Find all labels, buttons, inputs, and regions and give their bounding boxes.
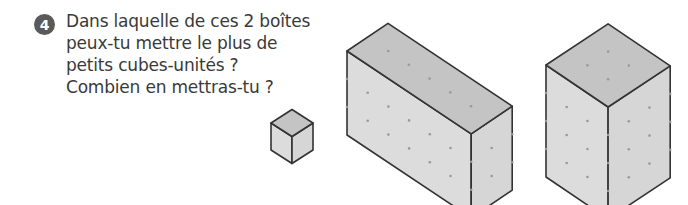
grid-dot [470,105,473,108]
grid-dot [366,92,369,95]
figures-canvas [0,0,688,205]
grid-dot [607,190,610,193]
grid-dot [628,148,631,151]
grid-dot [628,120,631,123]
box-1-figure [346,23,514,205]
grid-dot [586,148,589,151]
grid-dot [408,147,411,150]
grid-dot [346,78,349,81]
grid-dot [449,147,452,150]
grid-dot [648,106,651,109]
box-2-figure [545,24,672,205]
grid-dot [387,50,390,53]
grid-dot [669,121,672,124]
grid-dot [490,175,493,178]
unit-cube-figure [271,110,313,164]
grid-dot [511,161,514,164]
grid-dot [470,161,473,164]
grid-dot [586,64,589,67]
grid-dot [366,120,369,123]
grid-dot [408,64,411,67]
grid-dot [607,50,610,53]
grid-dot [346,106,349,109]
grid-dot [490,147,493,150]
grid-dot [648,162,651,165]
grid-dot [669,149,672,152]
grid-dot [586,176,589,179]
grid-dot [669,93,672,96]
grid-dot [545,120,548,123]
grid-dot [429,161,432,164]
grid-dot [511,133,514,136]
grid-dot [648,134,651,137]
grid-dot [449,91,452,94]
grid-dot [470,189,473,192]
grid-dot [607,162,610,165]
grid-dot [408,119,411,122]
grid-dot [449,175,452,178]
grid-dot [628,176,631,179]
grid-dot [607,134,610,137]
grid-dot [545,92,548,95]
grid-dot [545,148,548,151]
grid-dot [428,77,431,80]
grid-dot [387,105,390,108]
grid-dot [565,134,568,137]
grid-dot [607,78,610,81]
grid-dot [565,162,568,165]
grid-dot [429,133,432,136]
grid-dot [586,120,589,123]
grid-dot [387,133,390,136]
grid-dot [628,64,631,67]
grid-dot [565,106,568,109]
